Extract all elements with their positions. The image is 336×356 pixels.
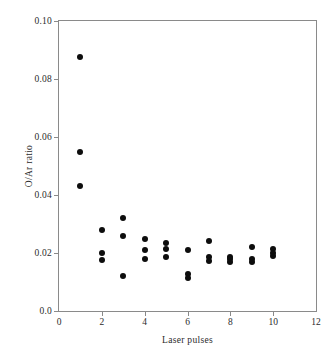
plot-frame: 0.00.020.040.060.080.10 024681012 xyxy=(58,20,317,312)
x-axis-title: Laser pulses xyxy=(58,335,317,345)
data-point xyxy=(99,227,105,233)
x-tick-mark xyxy=(188,311,189,316)
x-tick-label: 10 xyxy=(268,317,278,327)
data-point xyxy=(227,259,233,265)
x-tick-label: 2 xyxy=(99,317,104,327)
data-point xyxy=(142,256,148,262)
data-point xyxy=(249,244,255,250)
data-point xyxy=(249,259,255,265)
y-tick-mark xyxy=(54,311,59,312)
data-point xyxy=(142,236,148,242)
x-tick-mark xyxy=(273,311,274,316)
data-point xyxy=(270,253,276,259)
data-point xyxy=(77,183,83,189)
x-tick-label: 6 xyxy=(185,317,190,327)
y-tick-label: 0.04 xyxy=(35,190,52,200)
data-point xyxy=(206,238,212,244)
x-tick-label: 0 xyxy=(57,317,62,327)
data-point xyxy=(99,257,105,263)
data-point xyxy=(163,240,169,246)
data-point xyxy=(77,149,83,155)
x-tick-label: 8 xyxy=(228,317,233,327)
y-tick-label: 0.10 xyxy=(35,16,52,26)
data-point xyxy=(142,247,148,253)
x-tick-label: 4 xyxy=(142,317,147,327)
x-tick-mark xyxy=(102,311,103,316)
data-point xyxy=(206,258,212,264)
data-point xyxy=(77,54,83,60)
x-tick-mark xyxy=(230,311,231,316)
data-point xyxy=(163,246,169,252)
y-tick-label: 0.06 xyxy=(35,132,52,142)
data-point xyxy=(120,273,126,279)
x-tick-label: 12 xyxy=(311,317,321,327)
data-point xyxy=(185,275,191,281)
scatter-plot-figure: 0.00.020.040.060.080.10 024681012 O/Ar r… xyxy=(0,0,336,356)
y-tick-label: 0.0 xyxy=(40,306,52,316)
y-axis-title: O/Ar ratio xyxy=(24,145,34,187)
data-points-layer xyxy=(59,21,316,311)
data-point xyxy=(99,250,105,256)
y-tick-label: 0.02 xyxy=(35,248,52,258)
data-point xyxy=(120,215,126,221)
data-point xyxy=(163,254,169,260)
y-tick-label: 0.08 xyxy=(35,74,52,84)
x-tick-mark xyxy=(145,311,146,316)
data-point xyxy=(120,233,126,239)
data-point xyxy=(185,247,191,253)
